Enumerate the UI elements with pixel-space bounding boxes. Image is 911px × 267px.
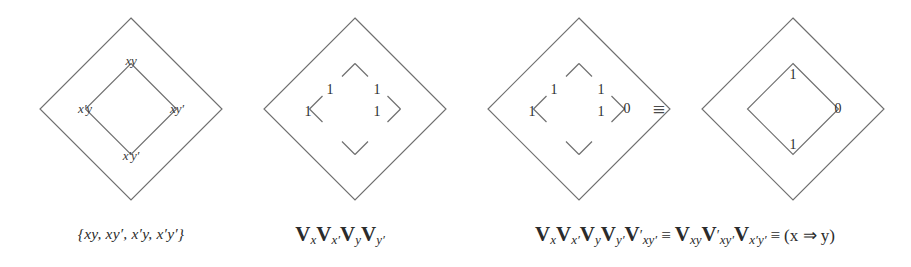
caption3-sub2: x′ bbox=[571, 232, 580, 247]
cell-digit-right-2: 1 bbox=[374, 82, 381, 98]
caption3-sub7: xy′ bbox=[720, 232, 734, 247]
inner-square-stubs-3 bbox=[534, 64, 625, 155]
caption2-sub4: y′ bbox=[376, 232, 385, 247]
caption3-v7: V bbox=[701, 222, 716, 246]
caption2-v3: V bbox=[340, 222, 355, 246]
outer-diamond-1 bbox=[40, 18, 222, 200]
outer-diamond-2 bbox=[264, 18, 446, 200]
caption2-v1: V bbox=[295, 222, 310, 246]
cell-digit-bottom-3: 1 bbox=[598, 104, 605, 120]
cell-label-bottom-1: x′y′ bbox=[123, 148, 139, 164]
caption3-v5: V bbox=[625, 222, 640, 246]
outer-diamond-4 bbox=[702, 18, 884, 200]
caption2-sub2: x′ bbox=[331, 232, 340, 247]
caption3-sub8: x′y′ bbox=[749, 232, 766, 247]
caption3-v8: V bbox=[734, 222, 749, 246]
caption3-sub6: xy bbox=[690, 232, 702, 247]
caption3-equiv1: ≡ bbox=[657, 226, 675, 245]
caption3-equiv2: ≡ bbox=[767, 226, 785, 245]
cell-digit-top-3: 1 bbox=[551, 82, 558, 98]
inner-square-stubs-2 bbox=[310, 64, 401, 155]
caption2-v2: V bbox=[316, 222, 331, 246]
cell-digit-top-2: 1 bbox=[327, 82, 334, 98]
cell-digit-top-4: 1 bbox=[790, 67, 797, 83]
cell-digit-bottom-2: 1 bbox=[374, 104, 381, 120]
cell-digit-left-2: 1 bbox=[305, 104, 312, 120]
caption3-sub4: y′ bbox=[616, 232, 625, 247]
equivalence-sign-between-diagrams: ≡ bbox=[653, 97, 665, 123]
cell-digit-left-3: 1 bbox=[529, 104, 536, 120]
cell-digit-bottom-4: 1 bbox=[790, 137, 797, 153]
cell-digit-outer-right-3: 0 bbox=[624, 101, 631, 117]
caption-diagram-1: {xy, xy′, x′y, x′y′} bbox=[78, 225, 185, 243]
cell-label-right-1: xy′ bbox=[170, 101, 184, 117]
caption3-v1: V bbox=[535, 222, 550, 246]
cell-label-top-1: xy bbox=[125, 53, 136, 69]
diagram-4-reduced-implication-diamond bbox=[700, 16, 886, 202]
outer-diamond-3 bbox=[488, 18, 670, 200]
inner-square-1 bbox=[86, 64, 177, 155]
cell-digit-right-4: 0 bbox=[835, 101, 842, 117]
caption-diagram-2: VxVx′VyVy′ bbox=[295, 222, 385, 248]
figure-root: xy x′y xy′ x′y′ 1 1 1 1 bbox=[0, 0, 911, 267]
caption3-v6: V bbox=[675, 222, 690, 246]
caption3-sub5: xy′ bbox=[643, 232, 657, 247]
diagram-1-minterm-diamond bbox=[38, 16, 224, 202]
diagram-3-ones-with-zero-diamond bbox=[486, 16, 672, 202]
caption3-v2: V bbox=[556, 222, 571, 246]
caption3-v3: V bbox=[580, 222, 595, 246]
caption-diagram-3-4-equation: VxVx′VyVy′V′xy′≡VxyV′xy′Vx′y′≡(x ⇒ y) bbox=[535, 222, 835, 248]
caption3-implication: (x ⇒ y) bbox=[784, 226, 835, 245]
cell-digit-right-3: 1 bbox=[598, 82, 605, 98]
caption3-v4: V bbox=[601, 222, 616, 246]
cell-label-left-1: x′y bbox=[78, 101, 92, 117]
caption2-v4: V bbox=[361, 222, 376, 246]
diagram-2-all-ones-diamond bbox=[262, 16, 448, 202]
